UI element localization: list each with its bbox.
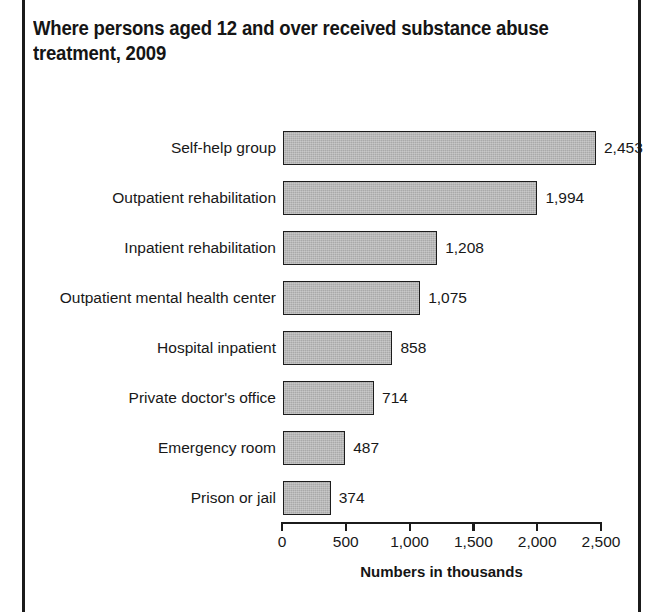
bar [283, 281, 420, 315]
bar [283, 331, 392, 365]
bar-value-label: 1,208 [445, 239, 484, 257]
bar-category-label: Self-help group [0, 139, 276, 157]
bar-category-label: Outpatient rehabilitation [0, 189, 276, 207]
bar [283, 181, 537, 215]
x-axis-title: Numbers in thousands [282, 563, 601, 580]
x-axis-tick-label: 500 [333, 533, 359, 551]
bar-category-label: Prison or jail [0, 489, 276, 507]
bar-category-label: Emergency room [0, 439, 276, 457]
bar [283, 481, 331, 515]
bar-value-label: 374 [339, 489, 365, 507]
x-axis-line [282, 522, 601, 524]
bar [283, 131, 596, 165]
bar-category-label: Outpatient mental health center [0, 289, 276, 307]
bar [283, 431, 345, 465]
bar-category-label: Hospital inpatient [0, 339, 276, 357]
bar [283, 381, 374, 415]
bar-chart-plot-area: Self-help group2,453Outpatient rehabilit… [0, 0, 664, 612]
x-axis-tick-label: 1,500 [454, 533, 493, 551]
x-axis-tick-label: 1,000 [390, 533, 429, 551]
x-axis-tick-label: 0 [278, 533, 287, 551]
bar [283, 231, 437, 265]
bar-value-label: 858 [400, 339, 426, 357]
bar-category-label: Private doctor's office [0, 389, 276, 407]
x-axis-tick-label: 2,000 [518, 533, 557, 551]
bar-value-label: 2,453 [604, 139, 643, 157]
x-axis-tick-label: 2,500 [582, 533, 621, 551]
bar-category-label: Inpatient rehabilitation [0, 239, 276, 257]
bar-value-label: 714 [382, 389, 408, 407]
bar-value-label: 1,994 [545, 189, 584, 207]
bar-value-label: 1,075 [428, 289, 467, 307]
bar-value-label: 487 [353, 439, 379, 457]
